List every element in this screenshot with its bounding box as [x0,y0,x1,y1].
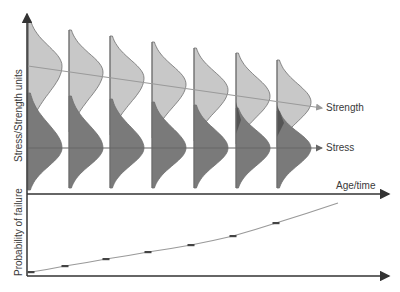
failure-point-marker [273,222,280,224]
stress-label: Stress [326,142,354,153]
y-axis-label-probability: Probability of failure [13,188,24,276]
failure-point-marker [28,271,35,273]
stress-distribution [152,102,186,188]
y-axis-label-stress-strength: Stress/Strength units [13,69,24,162]
strength-label: Strength [326,102,364,113]
x-axis-label-age-time: Age/time [336,180,375,191]
stress-distribution [69,96,103,188]
failure-probability-curve [28,203,339,273]
failure-point-marker [230,235,237,237]
failure-point-marker [145,251,152,253]
distribution-column [194,48,228,188]
distribution-columns [28,20,311,190]
failure-point-marker [188,244,195,246]
failure-point-marker [103,258,110,260]
stress-distribution [194,105,228,188]
distribution-column [28,20,62,190]
distribution-column [236,53,270,188]
distribution-column [69,30,103,188]
distribution-column [152,42,186,188]
failure-probability-line [31,203,338,272]
stress-distribution [110,99,144,188]
stress-distribution [28,93,62,190]
failure-point-marker [62,265,69,267]
distribution-column [110,36,144,188]
distribution-column [277,60,311,188]
